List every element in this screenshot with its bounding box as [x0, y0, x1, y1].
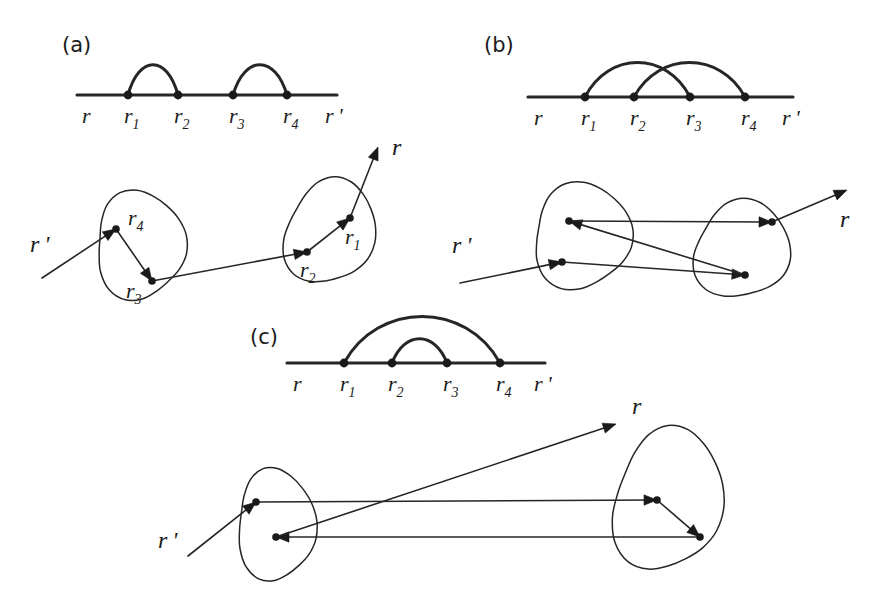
scattering-diagram-c: r 'r — [158, 393, 724, 581]
vertex-dot-r4-c — [496, 359, 505, 368]
panel-a: (a)r1r2r3r4rr 'r4r3r2r1r 'r — [30, 33, 402, 307]
site-dot-r4-a — [112, 225, 120, 233]
scattering-diagram-a: r4r3r2r1r 'r — [30, 134, 402, 307]
site-dot-site-right-bottom-b — [741, 271, 749, 279]
scattering-diagram-b: r 'r — [452, 182, 850, 297]
outgoing-ray-b — [772, 191, 844, 222]
vertex-label-r2-c: r2 — [388, 371, 404, 400]
scattering-label-r-prime-in-c: r ' — [158, 527, 178, 553]
incoming-ray-a — [42, 231, 113, 278]
scattering-label-r-prime-in-a: r ' — [30, 231, 50, 257]
site-dot-site-right-top-b — [768, 218, 776, 226]
vertex-dot-r3-b — [686, 93, 695, 102]
vertex-label-r2-a: r2 — [174, 103, 190, 132]
left-blob-a — [99, 190, 187, 301]
arc-diagram-a: r1r2r3r4rr ' — [77, 65, 343, 132]
outgoing-ray-arrowhead-a — [368, 147, 378, 161]
arc-r2-r4-b — [634, 63, 745, 97]
endpoint-label-r-prime-c: r ' — [534, 371, 552, 396]
vertex-label-r4-a: r4 — [283, 103, 299, 132]
left-blob-c — [239, 467, 317, 581]
vertex-dot-r1-c — [340, 359, 349, 368]
endpoint-label-r-prime-a: r ' — [325, 103, 343, 128]
vertex-dot-r2-b — [630, 93, 639, 102]
vertex-label-r1-b: r1 — [581, 105, 597, 134]
panel-label-b: (b) — [484, 33, 514, 57]
incoming-ray-b — [460, 263, 559, 283]
vertex-label-r1-a: r1 — [124, 103, 140, 132]
endpoint-label-r-a: r — [82, 103, 91, 128]
panel-label-c: (c) — [250, 325, 278, 349]
hop-leftbottom-rightbottom-b — [562, 262, 742, 275]
site-label-r4-a: r4 — [128, 205, 144, 234]
panel-b: (b)r1r2r3r4rr 'r 'r — [452, 33, 850, 296]
scattering-label-r-out-c: r — [632, 393, 642, 419]
site-label-r2-a: r2 — [300, 257, 316, 286]
hop-r3-r2-a — [152, 253, 304, 281]
arc-r2-r3-c — [392, 339, 447, 363]
endpoint-label-r-b: r — [534, 105, 543, 130]
vertex-dot-r3-c — [443, 359, 452, 368]
arc-r1-r2-a — [128, 65, 178, 95]
vertex-label-r4-c: r4 — [496, 371, 512, 400]
vertex-label-r2-b: r2 — [630, 105, 646, 134]
hop-rightbottom-lefttop-b — [572, 222, 745, 275]
arc-r3-r4-a — [233, 65, 287, 95]
vertex-label-r3-c: r3 — [443, 371, 459, 400]
vertex-dot-r3-a — [229, 91, 238, 100]
site-dot-site-right-top-c — [653, 496, 661, 504]
site-dot-r1-a — [346, 214, 354, 222]
scattering-label-r-out-a: r — [392, 134, 402, 160]
vertex-label-r3-b: r3 — [686, 105, 702, 134]
vertex-dot-r1-a — [124, 91, 133, 100]
vertex-label-r1-c: r1 — [340, 371, 356, 400]
incoming-ray-c — [188, 504, 254, 556]
site-label-r1-a: r1 — [345, 224, 361, 253]
site-dot-site-right-bottom-c — [696, 533, 704, 541]
site-dot-site-left-bottom-c — [272, 533, 280, 541]
right-blob-c — [612, 425, 724, 569]
vertex-label-r4-b: r4 — [741, 105, 757, 134]
endpoint-label-r-c: r — [293, 371, 302, 396]
vertex-dot-r2-a — [174, 91, 183, 100]
site-dot-r3-a — [148, 277, 156, 285]
hop-lefttop-righttop-b — [569, 221, 769, 222]
site-dot-site-left-top-b — [565, 217, 573, 225]
right-blob-a — [283, 177, 376, 282]
site-dot-site-left-top-c — [252, 498, 260, 506]
outgoing-ray-c — [276, 425, 613, 537]
right-blob-b — [693, 198, 791, 296]
outgoing-ray-arrowhead-b — [833, 190, 847, 200]
figure-root: (a)r1r2r3r4rr 'r4r3r2r1r 'r(b)r1r2r3r4rr… — [0, 0, 886, 602]
vertex-dot-r4-a — [283, 91, 292, 100]
scattering-label-r-out-b: r — [840, 206, 850, 232]
site-label-r3-a: r3 — [126, 278, 142, 307]
arc-diagram-c: r1r2r3r4rr ' — [287, 316, 552, 400]
panel-c: (c)r1r2r3r4rr 'r 'r — [158, 316, 724, 581]
vertex-dot-r2-c — [388, 359, 397, 368]
vertex-dot-r4-b — [741, 93, 750, 102]
endpoint-label-r-prime-b: r ' — [782, 105, 800, 130]
arc-diagram-b: r1r2r3r4rr ' — [528, 63, 800, 134]
panel-label-a: (a) — [62, 33, 91, 57]
scattering-figure-canvas: (a)r1r2r3r4rr 'r4r3r2r1r 'r(b)r1r2r3r4rr… — [0, 0, 886, 602]
vertex-label-r3-a: r3 — [229, 103, 245, 132]
scattering-label-r-prime-in-b: r ' — [452, 232, 472, 258]
site-dot-r2-a — [303, 248, 311, 256]
hop-lefttop-righttop-c — [256, 500, 654, 502]
site-dot-site-left-bottom-b — [558, 258, 566, 266]
outgoing-ray-arrowhead-c — [602, 423, 616, 433]
vertex-dot-r1-b — [581, 93, 590, 102]
